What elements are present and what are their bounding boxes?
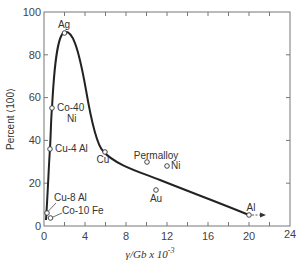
- cu8al-leader: [49, 203, 57, 211]
- x-tick-label: 24: [284, 228, 296, 240]
- arrow-right-icon: [260, 213, 266, 218]
- x-tick-label: 20: [243, 230, 255, 242]
- y-axis-title: Percent ⟨100⟩: [5, 88, 16, 150]
- label-co40-ni: Ni: [67, 113, 76, 124]
- y-tick-label: 60: [29, 91, 41, 103]
- x-ticks: [65, 12, 270, 226]
- x-axis-title-main: γ/Gb x 10: [126, 248, 169, 260]
- x-tick-label: 4: [82, 230, 88, 242]
- label-ni: Ni: [171, 160, 180, 171]
- point-al: [247, 213, 252, 218]
- x-tick-label: 0: [41, 230, 47, 242]
- co10fe-leader: [53, 213, 62, 217]
- y-tick-label: 20: [29, 177, 41, 189]
- point-cu8al: [45, 211, 50, 216]
- x-axis-title-exp: -3: [168, 246, 175, 255]
- label-ag: Ag: [58, 19, 70, 30]
- x-tick-label: 16: [202, 230, 214, 242]
- y-tick-label: 80: [29, 49, 41, 61]
- x-axis-title: γ/Gb x 10-3: [126, 246, 175, 260]
- label-cu4al: Cu-4 Al: [55, 143, 88, 154]
- point-ag: [62, 31, 67, 36]
- point-cu4al: [48, 147, 53, 152]
- y-tick-label: 0: [35, 220, 41, 232]
- point-ni: [165, 164, 170, 169]
- point-co40ni: [50, 106, 55, 111]
- label-cu8al: Cu-8 Al: [54, 192, 87, 203]
- point-co10fe: [48, 216, 53, 221]
- label-al: Al: [247, 202, 256, 213]
- x-tick-label: 8: [123, 230, 129, 242]
- label-co40: Co-40: [57, 102, 85, 113]
- x-tick-label: 12: [161, 230, 173, 242]
- chart: 0 4 8 12 16 20 24 0 20 40 60 80 100 Perc…: [0, 0, 304, 263]
- y-tick-label: 100: [23, 6, 41, 18]
- label-au: Au: [150, 193, 162, 204]
- label-co10fe: Co-10 Fe: [62, 205, 104, 216]
- label-cu: Cu: [97, 154, 110, 165]
- y-tick-label: 40: [29, 134, 41, 146]
- point-au: [154, 188, 159, 193]
